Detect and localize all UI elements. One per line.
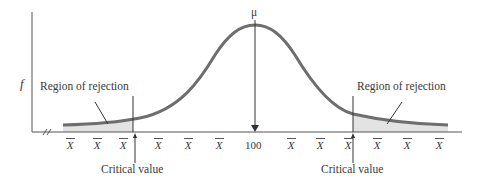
mean-arrow-icon bbox=[251, 125, 259, 132]
x-tick-label: X bbox=[151, 139, 165, 151]
x-tick-label: X bbox=[370, 139, 384, 151]
x-tick-label: X bbox=[432, 139, 446, 151]
x-tick-label: X bbox=[63, 139, 77, 151]
y-axis-label: f bbox=[20, 76, 24, 92]
left-region-pointer bbox=[95, 102, 108, 124]
x-tick-label: X bbox=[181, 139, 195, 151]
left-critical-label: Critical value bbox=[101, 163, 163, 175]
x-tick-label: X bbox=[341, 139, 355, 151]
left-critical-arrow-icon bbox=[133, 133, 137, 138]
left-region-label: Region of rejection bbox=[40, 80, 129, 92]
x-tick-label: X bbox=[400, 139, 414, 151]
mean-label: μ bbox=[251, 6, 257, 18]
mean-value-label: 100 bbox=[245, 139, 262, 151]
x-tick-label: X bbox=[284, 139, 298, 151]
x-tick-label: X bbox=[313, 139, 327, 151]
x-tick-label: X bbox=[212, 139, 226, 151]
normal-curve-diagram bbox=[0, 0, 487, 190]
right-critical-label: Critical value bbox=[321, 163, 383, 175]
x-tick-label: X bbox=[116, 139, 130, 151]
x-tick-label: X bbox=[90, 139, 104, 151]
right-region-label: Region of rejection bbox=[357, 80, 446, 92]
